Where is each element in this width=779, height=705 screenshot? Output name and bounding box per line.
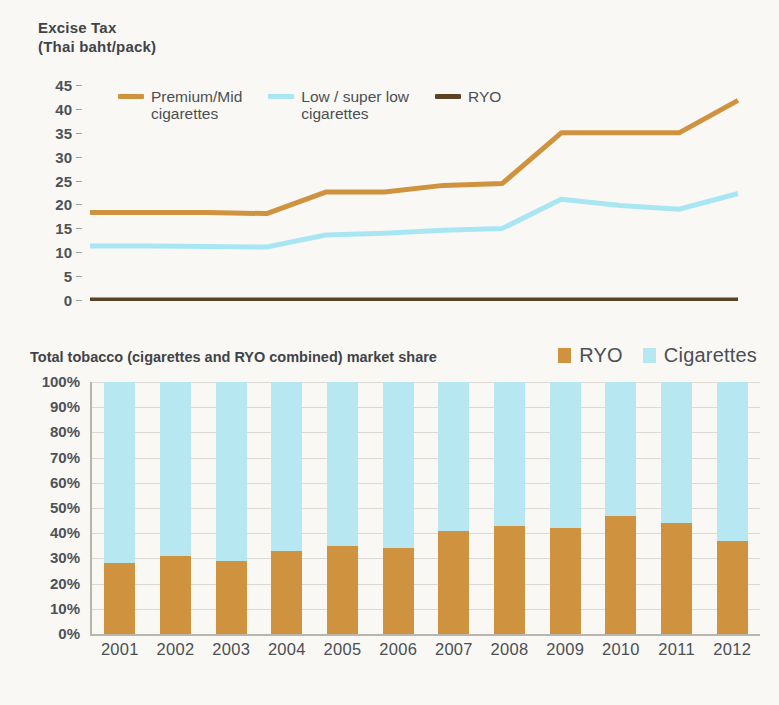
line-chart-y-tick-mark [76, 133, 82, 134]
line-chart-y-tick-mark [76, 228, 82, 229]
bar-chart-y-tick-label: 50% [50, 502, 80, 514]
bar-chart-y-axis-labels: 100%90%80%70%60%50%40%30%20%10%0% [30, 382, 86, 634]
bar-stack [438, 382, 469, 634]
line-chart-y-tick-mark [76, 252, 82, 253]
bar-segment-ryo[interactable] [661, 523, 692, 634]
line-chart-y-tick-mark [76, 181, 82, 182]
bar-chart-y-tick-label: 40% [50, 527, 80, 539]
bar-stack [550, 382, 581, 634]
line-chart-y-tick-label: 35 [55, 128, 72, 140]
line-chart-svg [90, 86, 756, 301]
bar-chart-x-tick-label: 2007 [426, 640, 482, 659]
bar-column[interactable] [537, 382, 593, 634]
bar-segment-ryo[interactable] [717, 541, 748, 634]
line-chart-y-tick-label: 0 [64, 295, 72, 307]
line-chart-y-tick-label: 30 [55, 152, 72, 164]
bar-chart-y-tick-label: 100% [42, 376, 80, 388]
bar-segment-ryo[interactable] [271, 551, 302, 634]
bar-legend-swatch-icon [558, 348, 571, 363]
line-chart-y-axis: 454035302520151050 [30, 80, 82, 305]
bar-chart-y-tick-label: 0% [58, 628, 80, 640]
bar-chart-x-tick-label: 2008 [482, 640, 538, 659]
bar-chart-x-tick-label: 2002 [148, 640, 204, 659]
bar-chart-x-tick-label: 2004 [259, 640, 315, 659]
bar-chart-y-tick-label: 30% [50, 552, 80, 564]
line-chart-y-tick-mark [76, 157, 82, 158]
bar-segment-ryo[interactable] [327, 546, 358, 634]
bar-column[interactable] [148, 382, 204, 634]
line-chart-y-tick-mark [76, 300, 82, 301]
bar-legend-label: Cigarettes [664, 344, 757, 367]
bar-segment-ryo[interactable] [550, 528, 581, 634]
market-share-bar-chart: Total tobacco (cigarettes and RYO combin… [0, 330, 779, 705]
bar-column[interactable] [370, 382, 426, 634]
bar-chart-y-tick-label: 70% [50, 452, 80, 464]
bar-chart-y-tick-label: 10% [50, 603, 80, 615]
bar-chart-bars [92, 382, 760, 634]
bar-column[interactable] [315, 382, 371, 634]
bar-segment-cigarettes[interactable] [494, 382, 525, 526]
line-series-premium-mid-cigarettes [90, 100, 738, 213]
bar-chart-x-tick-label: 2011 [649, 640, 705, 659]
bar-chart-x-tick-label: 2005 [315, 640, 371, 659]
bar-segment-cigarettes[interactable] [717, 382, 748, 541]
bar-column[interactable] [482, 382, 538, 634]
bar-chart-title: Total tobacco (cigarettes and RYO combin… [30, 349, 437, 365]
bar-chart-x-tick-label: 2009 [537, 640, 593, 659]
bar-segment-ryo[interactable] [216, 561, 247, 634]
bar-chart-y-tick-label: 90% [50, 401, 80, 413]
bar-chart-y-tick-label: 20% [50, 578, 80, 590]
bar-segment-cigarettes[interactable] [216, 382, 247, 561]
chart-page: Excise Tax (Thai baht/pack) 454035302520… [0, 0, 779, 705]
bar-column[interactable] [649, 382, 705, 634]
line-chart-plot-area [90, 86, 756, 301]
bar-legend-label: RYO [579, 344, 623, 367]
line-chart-title-line2: (Thai baht/pack) [38, 37, 298, 56]
bar-segment-cigarettes[interactable] [438, 382, 469, 531]
bar-chart-x-axis-line [90, 634, 760, 636]
bar-segment-ryo[interactable] [104, 563, 135, 634]
bar-legend-swatch-icon [643, 348, 656, 363]
line-series-low-super-low-cigarettes [90, 194, 738, 248]
bar-stack [494, 382, 525, 634]
bar-segment-cigarettes[interactable] [327, 382, 358, 546]
bar-segment-cigarettes[interactable] [104, 382, 135, 563]
bar-legend-item-ryo[interactable]: RYO [558, 344, 623, 367]
bar-chart-x-tick-label: 2001 [92, 640, 148, 659]
bar-chart-x-tick-label: 2010 [593, 640, 649, 659]
line-chart-y-tick-mark [76, 276, 82, 277]
bar-segment-cigarettes[interactable] [383, 382, 414, 548]
line-chart-y-tick-label: 15 [55, 223, 72, 235]
bar-segment-cigarettes[interactable] [271, 382, 302, 551]
bar-segment-cigarettes[interactable] [605, 382, 636, 516]
line-chart-y-tick-label: 40 [55, 104, 72, 116]
excise-tax-line-chart: Excise Tax (Thai baht/pack) 454035302520… [0, 0, 779, 330]
bar-segment-ryo[interactable] [383, 548, 414, 634]
bar-segment-ryo[interactable] [438, 531, 469, 634]
bar-segment-cigarettes[interactable] [550, 382, 581, 528]
line-chart-y-tick-mark [76, 109, 82, 110]
bar-segment-ryo[interactable] [494, 526, 525, 634]
bar-column[interactable] [593, 382, 649, 634]
bar-segment-ryo[interactable] [160, 556, 191, 634]
bar-segment-cigarettes[interactable] [160, 382, 191, 556]
bar-segment-cigarettes[interactable] [661, 382, 692, 523]
bar-column[interactable] [203, 382, 259, 634]
line-chart-title: Excise Tax (Thai baht/pack) [38, 18, 298, 56]
bar-column[interactable] [426, 382, 482, 634]
bar-stack [216, 382, 247, 634]
bar-legend-item-cigarettes[interactable]: Cigarettes [643, 344, 757, 367]
bar-column[interactable] [92, 382, 148, 634]
line-chart-y-tick-label: 5 [64, 271, 72, 283]
line-chart-y-tick-label: 10 [55, 247, 72, 259]
line-chart-title-line1: Excise Tax [38, 18, 298, 37]
bar-chart-x-tick-label: 2012 [704, 640, 760, 659]
bar-segment-ryo[interactable] [605, 516, 636, 634]
bar-stack [383, 382, 414, 634]
bar-column[interactable] [259, 382, 315, 634]
bar-chart-y-tick-label: 60% [50, 477, 80, 489]
bar-column[interactable] [704, 382, 760, 634]
bar-stack [327, 382, 358, 634]
line-chart-y-tick-label: 45 [55, 80, 72, 92]
bar-chart-plot-wrapper: 100%90%80%70%60%50%40%30%20%10%0% 200120… [30, 382, 765, 682]
